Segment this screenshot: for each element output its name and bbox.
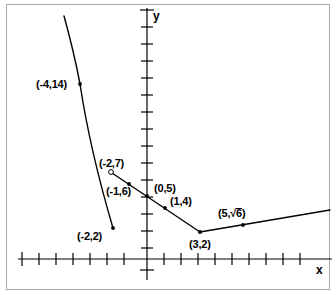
label-minus2-7: (-2,7) bbox=[99, 158, 124, 169]
label-minus1-6: (-1,6) bbox=[106, 186, 131, 197]
data-point-0-5 bbox=[145, 194, 149, 198]
label-minus2-2: (-2,2) bbox=[77, 231, 102, 242]
data-point-minus4-14 bbox=[78, 82, 82, 86]
graph-figure: (-4,14) (-2,7) (-1,6) (0,5) (1,4) (-2,2)… bbox=[0, 0, 336, 295]
label-1-4: (1,4) bbox=[170, 196, 192, 207]
label-minus4-14: (-4,14) bbox=[36, 79, 67, 90]
y-axis-label: y bbox=[153, 10, 160, 22]
data-point-5-sqrt6 bbox=[241, 223, 245, 227]
data-point-3-2 bbox=[198, 230, 202, 234]
label-0-5: (0,5) bbox=[154, 183, 176, 194]
series-steep-decreasing-branch bbox=[64, 16, 115, 230]
label-3-2: (3,2) bbox=[189, 239, 211, 250]
x-axis bbox=[18, 252, 332, 266]
data-point-minus2-2 bbox=[111, 226, 115, 230]
radicand: 6 bbox=[236, 207, 242, 219]
radical-icon: √6 bbox=[230, 208, 242, 219]
data-point-minus2-7-open bbox=[109, 170, 114, 175]
sqrt-label-prefix: (5, bbox=[218, 207, 230, 219]
radical-vinculum bbox=[236, 208, 242, 209]
sqrt-label-suffix: ) bbox=[242, 207, 245, 219]
data-point-1-4 bbox=[163, 206, 167, 210]
x-axis-label: x bbox=[316, 264, 323, 276]
y-axis bbox=[140, 8, 154, 280]
label-5-sqrt6: (5,√6) bbox=[218, 208, 245, 219]
plot-canvas bbox=[0, 0, 336, 295]
